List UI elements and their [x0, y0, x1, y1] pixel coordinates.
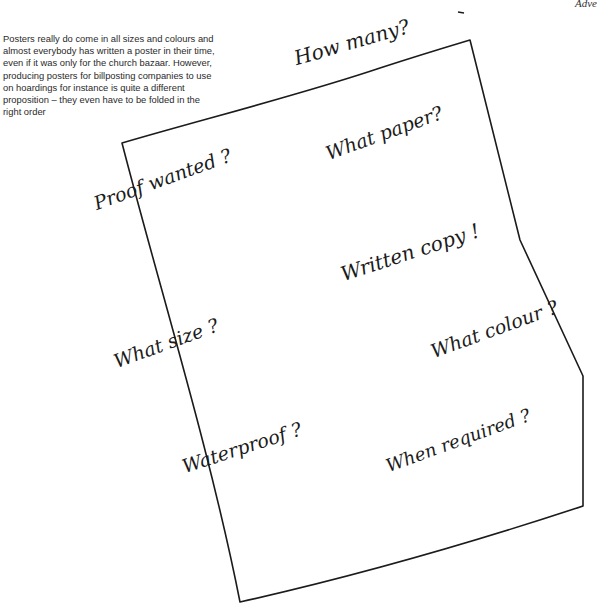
- dash-mark: [458, 12, 464, 13]
